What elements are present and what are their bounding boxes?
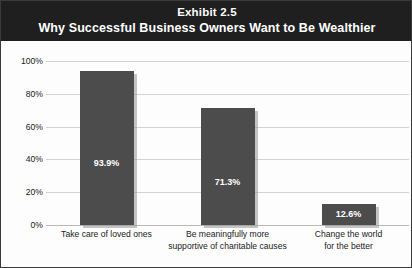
category-label-line: Take care of loved ones (46, 229, 167, 241)
y-tick-label: 80% (5, 89, 43, 99)
x-axis-categories: Take care of loved ones Be meaningfully … (46, 229, 409, 265)
chart-title: Why Successful Business Owners Want to B… (38, 20, 375, 37)
y-tick-label: 40% (5, 154, 43, 164)
category-label-line: Change the world (288, 229, 409, 241)
bar-series: 93.9% 71.3% 12.6% (46, 61, 409, 225)
chart-title-banner: Exhibit 2.5 Why Successful Business Owne… (1, 1, 412, 41)
exhibit-chart-figure: Exhibit 2.5 Why Successful Business Owne… (0, 0, 412, 268)
category-label-0: Take care of loved ones (46, 229, 167, 241)
bar-change-the-world-for-the-better: 12.6% (322, 204, 376, 225)
bar-slot: 12.6% (288, 61, 409, 225)
y-tick-label: 100% (5, 56, 43, 66)
y-tick-label: 20% (5, 187, 43, 197)
category-label-line: for the better (288, 241, 409, 253)
bar-value-label: 71.3% (215, 177, 241, 187)
bar-take-care-of-loved-ones: 93.9% (80, 71, 134, 225)
bar-value-label: 93.9% (94, 158, 120, 168)
y-axis: 100% 80% 60% 40% 20% 0% (1, 61, 43, 225)
bar-supportive-of-charitable-causes: 71.3% (201, 108, 255, 225)
y-tick-label: 60% (5, 122, 43, 132)
exhibit-number-label: Exhibit 2.5 (177, 5, 237, 20)
category-label-1: Be meaningfully more supportive of chari… (167, 229, 288, 252)
plot-area: 100% 80% 60% 40% 20% 0% 93.9% (1, 41, 412, 268)
category-label-line: supportive of charitable causes (167, 241, 288, 253)
y-tick-label: 0% (5, 220, 43, 230)
x-axis-baseline (46, 225, 409, 226)
category-label-2: Change the world for the better (288, 229, 409, 252)
bar-slot: 71.3% (167, 61, 288, 225)
bar-value-label: 12.6% (336, 209, 362, 219)
bar-slot: 93.9% (46, 61, 167, 225)
category-label-line: Be meaningfully more (167, 229, 288, 241)
